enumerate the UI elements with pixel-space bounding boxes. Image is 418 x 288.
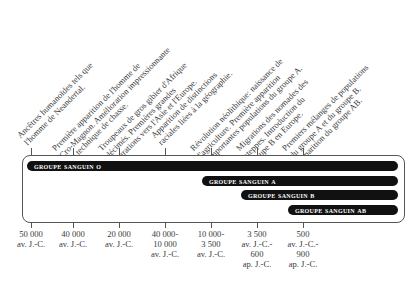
date-line: av. J.-C. [50,239,96,249]
date-line: av. J.-C.- [234,239,280,249]
date-line: 500 [280,229,326,239]
date-label: 40 000 av. J.-C. [50,229,96,249]
tick-bottom [73,222,74,228]
bar-groupe-b: Groupe sanguin B [241,190,398,200]
date-line: 50 000 [8,229,54,239]
date-label: 20 000 av. J.-C. [96,229,142,249]
date-line: ap. J.-C. [280,259,326,269]
bar-label: Groupe sanguin O [34,161,101,171]
date-line: 40 000- [142,229,188,239]
date-line: 600 [234,249,280,259]
date-label: 500 av. J.-C.- 900 ap. J.-C. [280,229,326,269]
date-line: 40 000 [50,229,96,239]
bar-groupe-ab: Groupe sanguin AB [288,205,398,215]
date-line: 10 000- [188,229,234,239]
bar-label: Groupe sanguin A [209,176,276,186]
date-label: 50 000 av. J.-C. [8,229,54,249]
date-line: av. J.-C. [142,249,188,259]
tick-bottom [211,222,212,228]
tick-bottom [165,222,166,228]
date-label: 40 000- 10 000 av. J.-C. [142,229,188,259]
bar-label: Groupe sanguin B [248,190,315,200]
date-line: 3 500 [234,229,280,239]
tick-bottom [303,222,304,228]
date-line: 3 500 [188,239,234,249]
date-line: 20 000 [96,229,142,239]
date-label: 10 000- 3 500 av. J.-C. [188,229,234,259]
bar-label: Groupe sanguin AB [295,205,366,215]
date-line: av. J.-C. [188,249,234,259]
date-line: av. J.-C. [96,239,142,249]
tick-bottom [31,222,32,228]
tick-bottom [119,222,120,228]
tick-bottom [257,222,258,228]
date-line: ap. J.-C. [234,259,280,269]
date-line: av. J.-C. [8,239,54,249]
date-label: 3 500 av. J.-C.- 600 ap. J.-C. [234,229,280,269]
date-line: 10 000 [142,239,188,249]
date-line: av. J.-C.- [280,239,326,249]
bar-groupe-o: Groupe sanguin O [27,161,398,171]
date-line: 900 [280,249,326,259]
bar-groupe-a: Groupe sanguin A [202,176,398,186]
